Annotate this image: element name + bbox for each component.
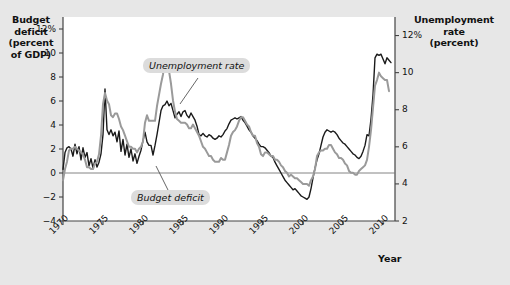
left-tick-label-3: 6 bbox=[28, 96, 56, 106]
callout-unemployment-rate: Unemployment rate bbox=[143, 58, 250, 73]
chart-figure: Budget deficit (percent of GDP) Unemploy… bbox=[0, 0, 510, 285]
plot-background bbox=[63, 17, 395, 221]
left-tick-label-2: 8 bbox=[28, 72, 56, 82]
left-tick-label-7: −2 bbox=[28, 192, 56, 202]
right-tick-label-5: 2 bbox=[402, 216, 432, 226]
right-tick-label-0: 12% bbox=[402, 30, 432, 40]
right-tick-label-2: 8 bbox=[402, 104, 432, 114]
left-tick-label-0: 12% bbox=[28, 24, 56, 34]
left-tick-label-5: 2 bbox=[28, 144, 56, 154]
right-tick-label-3: 6 bbox=[402, 141, 432, 151]
left-tick-label-6: 0 bbox=[28, 168, 56, 178]
callout-budget-deficit: Budget deficit bbox=[131, 190, 210, 205]
right-tick-label-1: 10 bbox=[402, 67, 432, 77]
right-tick-label-4: 4 bbox=[402, 178, 432, 188]
left-tick-label-4: 4 bbox=[28, 120, 56, 130]
left-tick-label-1: 10 bbox=[28, 48, 56, 58]
plot-area bbox=[0, 0, 510, 285]
